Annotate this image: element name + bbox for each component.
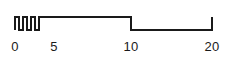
waveform-plot <box>0 0 231 59</box>
signal-trace <box>15 17 212 30</box>
axis-tick-label-20: 20 <box>205 40 220 53</box>
axis-tick-label-0: 0 <box>11 40 18 53</box>
waveform-figure: 0 5 10 20 <box>0 0 231 59</box>
axis-tick-label-10: 10 <box>124 40 139 53</box>
axis-tick-label-5: 5 <box>50 40 57 53</box>
